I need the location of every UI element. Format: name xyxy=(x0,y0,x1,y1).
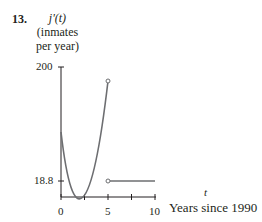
y-tick-label-18-8: 18.8 xyxy=(34,174,53,186)
chart-plot xyxy=(0,0,262,222)
open-endpoint-curve xyxy=(106,79,110,83)
open-endpoint-constant xyxy=(106,179,110,183)
x-axis-variable: t xyxy=(204,186,207,198)
x-tick-label-5: 5 xyxy=(105,205,111,217)
y-tick-label-200: 200 xyxy=(36,60,53,72)
x-tick-label-10: 10 xyxy=(149,205,160,217)
quadratic-curve xyxy=(61,81,108,199)
x-tick-label-0: 0 xyxy=(58,205,64,217)
x-axis-label: Years since 1990 xyxy=(169,200,257,216)
